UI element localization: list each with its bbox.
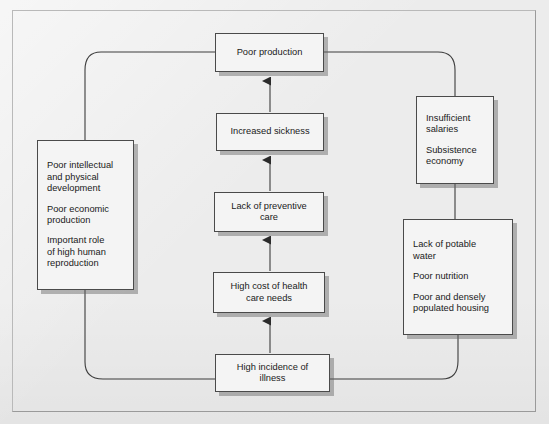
node-high-incidence-illness[interactable]: High incidence of illness xyxy=(215,354,330,392)
node-lack-potable-water-para-1-line-1: Lack of potable xyxy=(413,239,476,250)
node-lack-potable-water-para-2: Poor nutrition xyxy=(413,271,468,282)
node-poor-intellectual-para-1-line-1: Poor intellectual xyxy=(47,160,113,171)
node-poor-intellectual-para-3-line-1: Important role xyxy=(47,235,106,246)
node-poor-intellectual-para-2-line-2: production xyxy=(47,215,109,226)
node-poor-intellectual-para-1: Poor intellectual and physical developme… xyxy=(47,160,113,194)
node-lack-preventive-care-label-line2: care xyxy=(260,212,278,223)
node-poor-production-label: Poor production xyxy=(237,47,303,58)
node-high-incidence-illness-label-line1: High incidence of xyxy=(237,362,308,373)
node-poor-intellectual-para-3-line-3: reproduction xyxy=(47,258,106,269)
curve-intellectual-to-illness xyxy=(85,290,215,379)
node-lack-potable-water-para-3: Poor and densely populated housing xyxy=(413,292,489,315)
node-insufficient-salaries-para-1-line-2: salaries xyxy=(426,124,470,135)
node-high-cost-health-care-label-line2: care needs xyxy=(246,293,292,304)
node-increased-sickness[interactable]: Increased sickness xyxy=(216,113,324,151)
node-lack-potable-water-para-1-line-2: water xyxy=(413,251,476,262)
node-poor-intellectual-development[interactable]: Poor intellectual and physical developme… xyxy=(37,140,134,290)
node-lack-preventive-care-label-line1: Lack of preventive xyxy=(231,201,306,212)
node-increased-sickness-label: Increased sickness xyxy=(230,126,309,137)
node-insufficient-salaries-para-1: Insufficient salaries xyxy=(426,113,470,136)
node-poor-intellectual-para-3-line-2: of high human xyxy=(47,247,106,258)
node-poor-intellectual-para-1-line-3: development xyxy=(47,183,113,194)
node-insufficient-salaries[interactable]: Insufficient salaries Subsistence econom… xyxy=(416,96,494,184)
node-poor-intellectual-para-1-line-2: and physical xyxy=(47,172,113,183)
node-lack-potable-water-para-1: Lack of potable water xyxy=(413,239,476,262)
node-poor-intellectual-para-2-line-1: Poor economic xyxy=(47,204,109,215)
node-insufficient-salaries-para-1-line-1: Insufficient xyxy=(426,113,470,124)
node-lack-potable-water-para-3-line-1: Poor and densely xyxy=(413,292,489,303)
curve-production-to-intellectual xyxy=(85,52,215,140)
node-high-incidence-illness-label-line2: illness xyxy=(260,373,286,384)
node-lack-preventive-care[interactable]: Lack of preventive care xyxy=(214,192,324,232)
node-poor-intellectual-para-3: Important role of high human reproductio… xyxy=(47,235,106,269)
curve-illness-to-potable-water xyxy=(330,335,458,379)
node-insufficient-salaries-para-2: Subsistence economy xyxy=(426,145,477,168)
node-high-cost-health-care-label-line1: High cost of health xyxy=(230,281,307,292)
node-lack-potable-water-para-3-line-2: populated housing xyxy=(413,303,489,314)
node-high-cost-health-care[interactable]: High cost of health care needs xyxy=(213,272,325,313)
node-poor-intellectual-para-2: Poor economic production xyxy=(47,204,109,227)
node-insufficient-salaries-para-2-line-2: economy xyxy=(426,156,477,167)
node-poor-production[interactable]: Poor production xyxy=(215,33,324,72)
node-lack-potable-water[interactable]: Lack of potable water Poor nutrition Poo… xyxy=(403,219,513,335)
node-lack-potable-water-para-2-line-1: Poor nutrition xyxy=(413,271,468,282)
curve-production-to-salaries xyxy=(324,52,455,96)
diagram-canvas: Poor production Increased sickness Lack … xyxy=(0,0,549,424)
node-insufficient-salaries-para-2-line-1: Subsistence xyxy=(426,145,477,156)
